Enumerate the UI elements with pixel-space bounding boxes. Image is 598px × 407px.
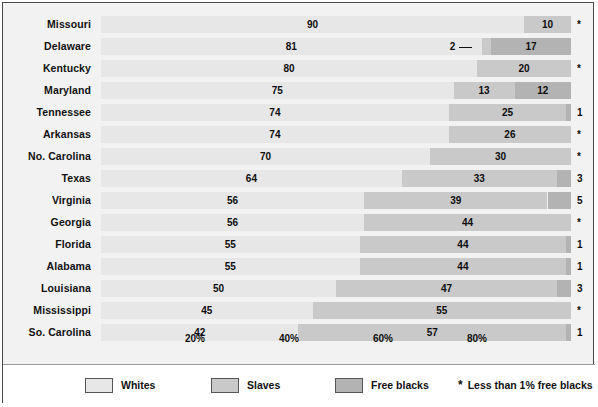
segment-value-label: 39	[364, 192, 547, 209]
row-label-mississippi: Mississippi	[3, 299, 91, 321]
segment-value-label: 47	[336, 280, 557, 297]
chart-row: Florida55441	[3, 233, 595, 255]
segment-value-label: 25	[449, 104, 567, 121]
row-label-delaware: Delaware	[3, 35, 91, 57]
segment-value-label: 74	[101, 126, 449, 143]
segment-free-blacks	[566, 104, 571, 121]
stacked-bar: 81172	[101, 38, 571, 55]
legend-item-free-blacks: Free blacks	[335, 377, 429, 393]
segment-value-label: 81	[101, 38, 482, 55]
segment-free-blacks	[548, 192, 572, 209]
legend-label: Free blacks	[371, 379, 429, 391]
stacked-bar: 5644	[101, 214, 571, 231]
legend-swatch	[335, 378, 363, 393]
legend-label: Slaves	[247, 379, 280, 391]
stacked-bar: 6433	[101, 170, 571, 187]
chart-row: Tennessee74251	[3, 101, 595, 123]
segment-value-label: 70	[101, 148, 430, 165]
x-axis-tick-label: 60%	[358, 333, 408, 344]
chart-plot-area: Missouri9010*Delaware81172Kentucky8020*M…	[3, 3, 595, 358]
callout-value: 2	[450, 41, 456, 52]
stacked-bar: 5047	[101, 280, 571, 297]
less-than-one-pct-asterisk: *	[577, 148, 581, 165]
chart-row: Alabama55441	[3, 255, 595, 277]
segment-free-blacks	[566, 258, 571, 275]
segment-free-blacks	[557, 170, 571, 187]
less-than-one-pct-asterisk: *	[577, 16, 581, 33]
free-blacks-outside-label: 1	[577, 104, 583, 121]
free-blacks-outside-label: 3	[577, 170, 583, 187]
segment-value-label: 20	[477, 60, 571, 77]
free-blacks-outside-label: 1	[577, 258, 583, 275]
row-label-virginia: Virginia	[3, 189, 91, 211]
chart-row: Arkansas7426*	[3, 123, 595, 145]
row-label-no-carolina: No. Carolina	[3, 145, 91, 167]
segment-value-label: 90	[101, 16, 524, 33]
legend-swatch	[85, 378, 113, 393]
segment-value-label: 13	[454, 82, 515, 99]
segment-value-label: 50	[101, 280, 336, 297]
stacked-bar: 7425	[101, 104, 571, 121]
row-label-missouri: Missouri	[3, 13, 91, 35]
segment-value-label: 45	[101, 302, 313, 319]
segment-value-label: 64	[101, 170, 402, 187]
footnote-asterisk-icon: *	[458, 379, 463, 391]
legend-label: Whites	[121, 379, 155, 391]
segment-value-label: 44	[360, 236, 567, 253]
stacked-bar: 5639	[101, 192, 571, 209]
chart-legend: WhitesSlavesFree blacks*Less than 1% fre…	[3, 365, 595, 405]
row-label-alabama: Alabama	[3, 255, 91, 277]
stacked-bar: 4555	[101, 302, 571, 319]
segment-value-label: 33	[402, 170, 557, 187]
legend-item-whites: Whites	[85, 377, 155, 393]
segment-value-label: 55	[313, 302, 572, 319]
segment-value-label: 56	[101, 192, 364, 209]
less-than-one-pct-asterisk: *	[577, 126, 581, 143]
legend-swatch	[211, 378, 239, 393]
segment-free-blacks	[557, 280, 571, 297]
chart-frame: Missouri9010*Delaware81172Kentucky8020*M…	[2, 2, 594, 403]
segment-value-label: 80	[101, 60, 477, 77]
chart-row: Texas64333	[3, 167, 595, 189]
segment-value-label: 55	[101, 258, 360, 275]
free-blacks-outside-label: 3	[577, 280, 583, 297]
segment-value-label: 30	[430, 148, 571, 165]
segment-value-label: 44	[364, 214, 571, 231]
segment-value-label: 10	[524, 16, 571, 33]
row-label-georgia: Georgia	[3, 211, 91, 233]
chart-row: Maryland751312	[3, 79, 595, 101]
chart-row: Louisiana50473	[3, 277, 595, 299]
chart-row: Mississippi4555*	[3, 299, 595, 321]
legend-footnote: *Less than 1% free blacks	[458, 377, 593, 393]
segment-value-label: 56	[101, 214, 364, 231]
segment-value-label: 44	[360, 258, 567, 275]
x-axis-tick-label: 20%	[170, 333, 220, 344]
free-blacks-outside-label: 5	[577, 192, 583, 209]
row-label-florida: Florida	[3, 233, 91, 255]
less-than-one-pct-asterisk: *	[577, 302, 581, 319]
stacked-bar: 9010	[101, 16, 571, 33]
segment-value-label: 75	[101, 82, 454, 99]
row-label-tennessee: Tennessee	[3, 101, 91, 123]
free-blacks-outside-label: 1	[577, 236, 583, 253]
row-label-texas: Texas	[3, 167, 91, 189]
segment-value-label: 26	[449, 126, 571, 143]
chart-row: Georgia5644*	[3, 211, 595, 233]
segment-slaves	[482, 38, 491, 55]
segment-free-blacks	[566, 236, 571, 253]
legend-item-slaves: Slaves	[211, 377, 280, 393]
chart-row: Missouri9010*	[3, 13, 595, 35]
row-label-kentucky: Kentucky	[3, 57, 91, 79]
x-axis: 20%40%60%80%	[3, 333, 595, 351]
segment-value-label: 55	[101, 236, 360, 253]
x-axis-tick-label: 80%	[452, 333, 502, 344]
row-label-maryland: Maryland	[3, 79, 91, 101]
segment-value-label: 17	[491, 38, 571, 55]
chart-row: Delaware81172	[3, 35, 595, 57]
row-label-arkansas: Arkansas	[3, 123, 91, 145]
less-than-one-pct-asterisk: *	[577, 214, 581, 231]
chart-row: Kentucky8020*	[3, 57, 595, 79]
segment-value-label: 12	[515, 82, 571, 99]
stacked-bar: 751312	[101, 82, 571, 99]
x-axis-tick-label: 40%	[264, 333, 314, 344]
